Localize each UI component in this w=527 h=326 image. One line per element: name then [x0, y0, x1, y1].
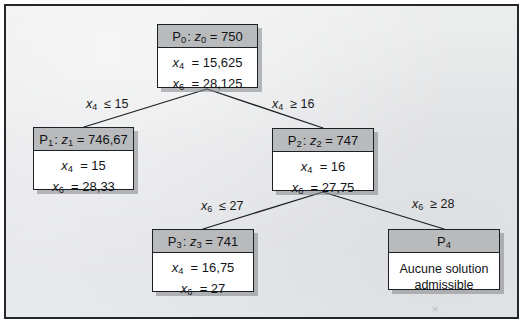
node-p4-text-line-1: admissible: [389, 277, 499, 293]
node-p1-body: x4 = 15 x6 = 28,33: [34, 151, 133, 199]
node-p1-row-0: x4 = 15: [34, 157, 133, 178]
edge-label-p2-p4: x6 ≥ 28: [412, 197, 455, 212]
edge-label-p2-p3: x6 ≤ 27: [201, 199, 244, 214]
node-p3[interactable]: P3 : z3 = 741 x4 = 16,75 x6 = 27: [152, 229, 254, 292]
node-p4-header: P4: [389, 230, 499, 253]
edge-label-p0-p1: x4 ≤ 15: [86, 97, 129, 112]
node-p0-body: x4 = 15,625 x6 = 28,125: [158, 48, 257, 96]
node-p0[interactable]: P0 : z0 = 750 x4 = 15,625 x6 = 28,125: [157, 24, 258, 88]
node-p2-header: P2 : z2 = 747: [273, 129, 373, 152]
edge-label-p0-p2: x4 ≥ 16: [272, 97, 315, 112]
node-p3-body: x4 = 16,75 x6 = 27: [153, 253, 253, 301]
node-p3-row-0: x4 = 16,75: [153, 259, 253, 280]
node-p2-body: x4 = 16 x6 = 27,75: [273, 152, 373, 200]
node-p2[interactable]: P2 : z2 = 747 x4 = 16 x6 = 27,75: [272, 128, 374, 191]
node-p3-row-1: x6 = 27: [153, 280, 253, 301]
node-p0-header: P0 : z0 = 750: [158, 25, 257, 48]
node-p0-row-0: x4 = 15,625: [158, 54, 257, 75]
node-p0-row-1: x6 = 28,125: [158, 75, 257, 96]
node-p2-row-0: x4 = 16: [273, 158, 373, 179]
node-p4[interactable]: P4 Aucune solution admissible: [388, 229, 500, 290]
node-p3-header: P3 : z3 = 741: [153, 230, 253, 253]
node-p1-row-1: x6 = 28,33: [34, 178, 133, 199]
scan-artifact-mark: ×: [432, 303, 438, 315]
node-p1-header: P1 : z1 = 746,67: [34, 128, 133, 151]
node-p4-body: Aucune solution admissible: [389, 253, 499, 293]
diagram-canvas: P0 : z0 = 750 x4 = 15,625 x6 = 28,125 P1…: [0, 0, 527, 326]
node-p4-text-line-0: Aucune solution: [389, 261, 499, 277]
node-p1[interactable]: P1 : z1 = 746,67 x4 = 15 x6 = 28,33: [33, 127, 134, 190]
node-p2-row-1: x6 = 27,75: [273, 179, 373, 200]
